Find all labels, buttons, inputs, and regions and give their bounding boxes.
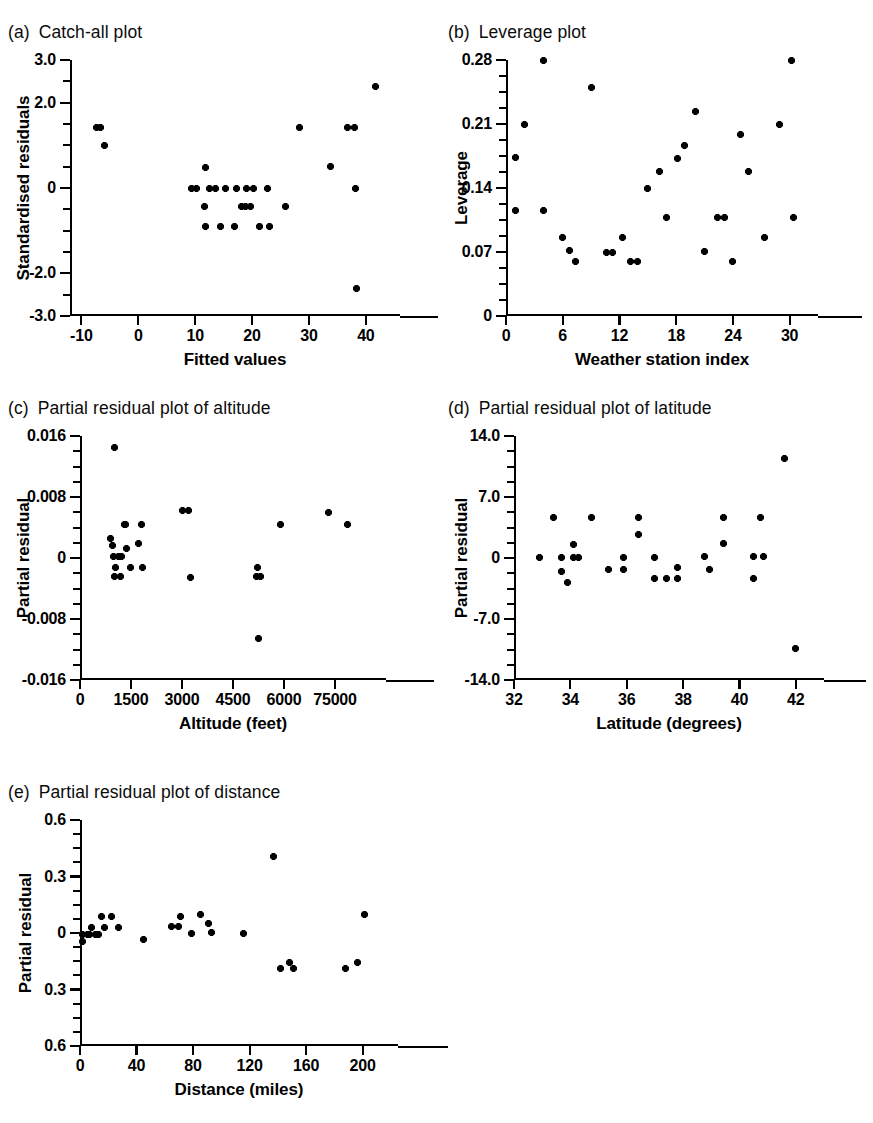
panel-d-axis-extension [824, 680, 866, 682]
panel-c-partial-residual-altitude: (c)Partial residual plot of altitude 0.0… [8, 398, 440, 766]
panel-a-data-point [327, 163, 334, 170]
panel-a-y-minor-tick [63, 272, 70, 274]
panel-c-x-tick-label: 0 [76, 691, 85, 709]
panel-c-data-point [122, 521, 129, 528]
panel-e-y-minor-tick [73, 974, 80, 976]
panel-b-y-minor-tick [499, 251, 506, 253]
panel-e-y-minor-tick [73, 1003, 80, 1005]
panel-d-x-tick-label: 42 [787, 691, 804, 709]
panel-c-y-minor-tick [73, 496, 80, 498]
panel-d-data-point [663, 575, 670, 582]
panel-e-data-point [290, 965, 297, 972]
panel-a-plot-area: 3.02.00-2.0-3.0-10010203040Fitted values… [8, 54, 440, 374]
panel-e-data-point [88, 924, 95, 931]
panel-a-y-minor-tick [63, 187, 70, 189]
panel-a-y-axis-title: Standardised residuals [14, 96, 34, 281]
panel-c-data-point [109, 542, 116, 549]
panel-a-x-tick-label: 40 [357, 327, 374, 345]
panel-e-data-point [240, 930, 247, 937]
panel-c-x-tick [130, 680, 132, 689]
panel-c-x-tick-label: 4500 [216, 691, 251, 709]
panel-c-data-point [117, 573, 124, 580]
panel-a-data-point [202, 164, 209, 171]
panel-b-y-minor-tick [499, 155, 506, 157]
panel-a-x-tick [308, 316, 310, 325]
panel-c-data-point [112, 564, 119, 571]
panel-b-y-minor-tick [499, 235, 506, 237]
panel-d-data-point [558, 554, 565, 561]
panel-c-y-minor-tick [73, 649, 80, 651]
panel-c-y-minor-tick [73, 557, 80, 559]
panel-a-x-tick [365, 316, 367, 325]
panel-e-x-tick-label: 80 [184, 1057, 201, 1075]
panel-e-x-axis-title: Distance (miles) [175, 1080, 304, 1100]
panel-b-data-point [761, 234, 768, 241]
panel-c-y-minor-tick [73, 466, 80, 468]
panel-d-data-point [750, 553, 757, 560]
panel-e-data-point [342, 965, 349, 972]
panel-a-data-point [97, 124, 104, 131]
panel-e-x-tick-label: 0 [76, 1057, 85, 1075]
panel-a-data-point [212, 185, 219, 192]
panel-b-y-minor-tick [499, 75, 506, 77]
panel-a-data-point [351, 124, 358, 131]
panel-b-data-point [644, 185, 651, 192]
panel-c-data-point [107, 535, 114, 542]
panel-e-x-tick-label: 40 [128, 1057, 145, 1075]
panel-e-data-point [168, 923, 175, 930]
panel-c-x-tick [283, 680, 285, 689]
panel-a-data-point [247, 203, 254, 210]
panel-b-data-point [572, 258, 579, 265]
panel-c-x-tick [232, 680, 234, 689]
panel-c-tag: (c) [8, 398, 29, 419]
panel-d-x-axis-title: Latitude (degrees) [596, 714, 742, 734]
panel-c-y-minor-tick [73, 481, 80, 483]
panel-c-x-tick-label: 6000 [267, 691, 302, 709]
panel-c-data-point [254, 564, 261, 571]
panel-e-y-minor-tick [73, 876, 80, 878]
panel-d-y-tick-label: 14.0 [448, 427, 500, 445]
panel-b-x-axis-title: Weather station index [575, 350, 749, 370]
panel-b-data-point [521, 121, 528, 128]
panel-a-data-point [372, 83, 379, 90]
panel-d-data-point [550, 514, 557, 521]
panel-b-y-minor-tick [499, 171, 506, 173]
panel-b-y-minor-tick [499, 203, 506, 205]
panel-e-y-minor-tick [73, 847, 80, 849]
panel-c-data-point [257, 573, 264, 580]
panel-b-x-tick [789, 316, 791, 325]
panel-e-axis-extension [398, 1046, 448, 1048]
panel-c-data-point [123, 545, 130, 552]
panel-b-data-point [609, 249, 616, 256]
panel-a-data-point [256, 223, 263, 230]
panel-c-x-tick-label: 75000 [313, 691, 357, 709]
panel-d-x-tick [626, 680, 628, 689]
panel-b-data-point [588, 84, 595, 91]
panel-b-x-tick [618, 316, 620, 325]
panel-d-partial-residual-latitude: (d)Partial residual plot of latitude 14.… [448, 398, 868, 766]
panel-c-y-tick-label: -0.016 [8, 671, 66, 689]
panel-b-data-point [540, 57, 547, 64]
panel-b-x-tick-label: 18 [667, 327, 684, 345]
panel-b-x-tick [505, 316, 507, 325]
panel-e-data-point [177, 913, 184, 920]
panel-e-data-point [98, 913, 105, 920]
panel-b-tag: (b) [448, 22, 470, 43]
panel-e-data-point [115, 924, 122, 931]
panel-c-x-tick [79, 680, 81, 689]
panel-d-data-point [706, 566, 713, 573]
panel-c-y-minor-tick [73, 588, 80, 590]
panel-b-x-tick-label: 30 [781, 327, 798, 345]
panel-d-data-point [605, 566, 612, 573]
panel-d-x-tick-label: 36 [618, 691, 635, 709]
panel-d-y-minor-tick [507, 633, 514, 635]
panel-d-data-point [620, 554, 627, 561]
panel-e-x-tick-label: 160 [293, 1057, 319, 1075]
panel-e-x-tick [362, 1046, 364, 1055]
panel-e-y-tick-label: 0.6 [8, 1037, 66, 1055]
panel-b-title-text: Leverage plot [479, 22, 586, 42]
panel-d-data-point [564, 579, 571, 586]
panel-a-data-point [202, 223, 209, 230]
panel-a-x-tick-label: 30 [300, 327, 317, 345]
panel-a-x-tick [137, 316, 139, 325]
